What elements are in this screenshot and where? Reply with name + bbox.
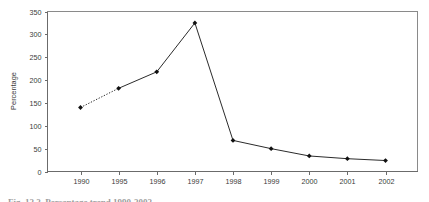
y-tick-label: 100: [30, 122, 42, 131]
y-axis-title: Percentage: [9, 72, 18, 110]
data-point-marker: [116, 86, 121, 91]
y-tick-label: 200: [30, 76, 42, 85]
y-tick-label: 250: [30, 53, 42, 62]
series-segment: [233, 140, 271, 148]
data-point-marker: [345, 156, 350, 161]
y-tick-label: 0: [38, 168, 42, 177]
y-tick-label: 150: [30, 99, 42, 108]
x-tick-label: 2002: [379, 177, 395, 186]
y-axis-ticks: 050100150200250300350: [30, 8, 48, 177]
x-tick-label: 1998: [226, 177, 242, 186]
data-series: [78, 21, 388, 163]
y-tick-label: 300: [30, 30, 42, 39]
y-tick-label: 350: [30, 8, 42, 17]
series-segment: [157, 23, 195, 72]
x-tick-label: 1990: [74, 177, 90, 186]
data-point-marker: [269, 146, 274, 151]
figure-caption: Fig. 12.2. Percentage trend 1990-2002: [8, 197, 152, 202]
x-tick-label: 1996: [150, 177, 166, 186]
data-point-marker: [307, 154, 312, 159]
line-chart: 050100150200250300350 199019951996199719…: [0, 0, 429, 202]
data-point-marker: [383, 158, 388, 163]
series-segment: [347, 159, 385, 161]
x-tick-label: 1997: [188, 177, 204, 186]
x-axis-ticks: 199019951996199719981999200020012002: [74, 172, 395, 186]
series-segment: [81, 88, 119, 107]
x-tick-label: 2000: [302, 177, 318, 186]
series-segment: [271, 149, 309, 156]
x-tick-label: 1999: [264, 177, 280, 186]
figure-container: 050100150200250300350 199019951996199719…: [0, 0, 429, 202]
series-segment: [119, 72, 157, 88]
series-segment: [195, 23, 233, 140]
data-point-marker: [78, 105, 83, 110]
plot-area-border: [48, 12, 418, 172]
data-point-marker: [231, 138, 236, 143]
x-tick-label: 2001: [340, 177, 356, 186]
y-tick-label: 50: [34, 145, 42, 154]
series-segment: [309, 156, 347, 159]
x-tick-label: 1995: [112, 177, 128, 186]
